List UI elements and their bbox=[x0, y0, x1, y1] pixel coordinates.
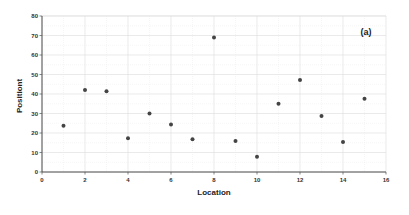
panel-label: (a) bbox=[361, 27, 372, 37]
data-point bbox=[341, 140, 345, 144]
data-point bbox=[363, 97, 367, 101]
data-point bbox=[298, 78, 302, 82]
x-tick-label: 12 bbox=[297, 177, 304, 183]
data-point bbox=[62, 124, 66, 128]
data-point bbox=[148, 112, 152, 116]
data-point bbox=[126, 136, 130, 140]
data-point bbox=[277, 102, 281, 106]
x-tick-label: 14 bbox=[340, 177, 347, 183]
y-tick-label: 70 bbox=[31, 33, 38, 39]
x-tick-label: 0 bbox=[40, 177, 44, 183]
y-tick-label: 40 bbox=[31, 91, 38, 97]
x-tick-label: 10 bbox=[254, 177, 261, 183]
y-tick-label: 0 bbox=[35, 169, 39, 175]
data-point bbox=[169, 122, 173, 126]
x-axis-title: Location bbox=[197, 188, 230, 197]
scatter-chart: 0246810121416 01020304050607080 Location… bbox=[0, 0, 409, 215]
data-point bbox=[234, 139, 238, 143]
y-tick-label: 60 bbox=[31, 52, 38, 58]
y-tick-label: 30 bbox=[31, 111, 38, 117]
y-tick-label: 10 bbox=[31, 150, 38, 156]
y-axis-title: Positiont bbox=[15, 79, 24, 114]
data-point bbox=[212, 35, 216, 39]
data-point bbox=[83, 88, 87, 92]
data-point bbox=[191, 137, 195, 141]
y-tick-label: 80 bbox=[31, 13, 38, 19]
y-tick-label: 20 bbox=[31, 130, 38, 136]
x-axis-ticks: 0246810121416 bbox=[40, 172, 390, 183]
y-axis-ticks: 01020304050607080 bbox=[31, 13, 42, 175]
data-point bbox=[320, 114, 324, 118]
data-point bbox=[105, 89, 109, 93]
y-tick-label: 50 bbox=[31, 72, 38, 78]
x-tick-label: 16 bbox=[383, 177, 390, 183]
x-tick-label: 2 bbox=[83, 177, 87, 183]
x-tick-label: 8 bbox=[212, 177, 216, 183]
x-tick-label: 4 bbox=[126, 177, 130, 183]
data-point bbox=[255, 155, 259, 159]
x-tick-label: 6 bbox=[169, 177, 173, 183]
